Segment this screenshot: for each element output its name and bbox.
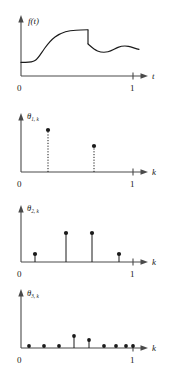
stem-marker — [92, 144, 96, 148]
stem-marker — [57, 344, 61, 348]
curve-segment-before-jump — [21, 30, 88, 63]
stem-marker — [72, 334, 76, 338]
xticklabel-one: 1 — [130, 83, 135, 93]
xlabel-k: k — [152, 257, 157, 267]
panel-theta3-canvas: θ3, k k 0 1 — [0, 284, 170, 382]
xlabel-k: k — [152, 343, 157, 353]
ylabel-theta1: θ1, k — [27, 111, 39, 122]
stem-marker — [117, 252, 121, 256]
stem-marker — [90, 231, 94, 235]
x-axis-arrowhead — [141, 345, 149, 350]
xticklabel-zero: 0 — [17, 179, 22, 189]
ylabel-ft: f(t) — [28, 16, 39, 26]
panel-theta2: θ2, k k 0 1 — [0, 196, 170, 284]
x-axis-arrowhead — [141, 169, 149, 174]
ylabel-theta2: θ2, k — [27, 203, 39, 214]
y-axis-arrowhead — [18, 15, 23, 23]
xticklabel-zero: 0 — [17, 83, 22, 93]
stem-marker — [102, 344, 106, 348]
xlabel-t: t — [152, 71, 155, 81]
stem-marker — [46, 128, 50, 132]
x-axis-arrowhead — [141, 259, 149, 264]
panel-function-ft: f(t) t 0 1 — [0, 0, 170, 96]
xticklabel-zero: 0 — [17, 269, 22, 279]
stem-marker — [64, 231, 68, 235]
xticklabel-one: 1 — [130, 179, 135, 189]
wavelet-coefficients-figure: f(t) t 0 1 θ1, k k 0 1 — [0, 0, 170, 382]
panel-theta3: θ3, k k 0 1 — [0, 284, 170, 382]
stem-marker — [131, 344, 135, 348]
y-axis-arrowhead — [18, 289, 23, 297]
xticklabel-one: 1 — [130, 355, 135, 365]
stem-marker — [114, 344, 118, 348]
panel-theta1: θ1, k k 0 1 — [0, 102, 170, 192]
stem-marker — [124, 344, 128, 348]
xticklabel-zero: 0 — [17, 355, 22, 365]
panel-theta2-canvas: θ2, k k 0 1 — [0, 196, 170, 284]
y-axis-arrowhead — [18, 205, 23, 213]
y-axis-arrowhead — [18, 113, 23, 121]
x-axis-arrowhead — [141, 73, 149, 78]
stem-marker — [87, 338, 91, 342]
panel-theta1-canvas: θ1, k k 0 1 — [0, 102, 170, 192]
panel-ft-canvas: f(t) t 0 1 — [0, 0, 170, 96]
stem-marker — [33, 252, 37, 256]
stem-marker — [27, 344, 31, 348]
stem-marker — [42, 344, 46, 348]
ylabel-theta3: θ3, k — [27, 288, 39, 299]
xlabel-k: k — [152, 167, 157, 177]
curve-segment-after-jump — [88, 44, 139, 52]
xticklabel-one: 1 — [130, 269, 135, 279]
